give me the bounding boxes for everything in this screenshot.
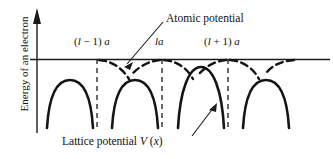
potential-symbol-v: V [140,135,147,147]
site-label-l: la [155,36,164,47]
atomic-potential-leader-arrowhead [124,62,133,70]
paren-open: ( [147,135,154,147]
atomic-tail-f [267,60,294,72]
y-axis-label: Energy of an electron [18,2,30,126]
lattice-potential-leader [192,103,217,136]
energy-band-lattice-potential-figure: Energy of an electron (l − 1) a la (l + … [0,0,333,159]
site-label-unit: a [234,35,240,47]
lattice-well-3 [178,67,224,128]
lattice-well-2 [112,80,158,128]
site-label-l-plus-1: (l + 1) a [204,36,240,47]
lattice-potential-text: Lattice potential [62,135,140,147]
atomic-tail-e [230,60,259,79]
atomic-potential-label: Atomic potential [166,13,244,25]
site-label-op: − 1) [81,35,105,47]
lattice-well-4 [243,80,289,128]
paren-close: ) [159,135,163,147]
lattice-potential-leader-arrowhead [209,103,217,112]
lattice-potential-label: Lattice potential V (x) [62,136,163,148]
site-label-unit: a [104,35,110,47]
site-label-op: + 1) [211,35,235,47]
atomic-tail-a [99,60,129,79]
energy-axis [33,8,41,133]
lattice-well-1 [47,80,93,128]
site-label-unit: a [158,35,164,47]
lattice-potential-curves [47,67,289,128]
atomic-tail-b [132,60,160,74]
site-label-l-minus-1: (l − 1) a [74,36,110,47]
energy-axis-arrowhead [33,8,41,24]
